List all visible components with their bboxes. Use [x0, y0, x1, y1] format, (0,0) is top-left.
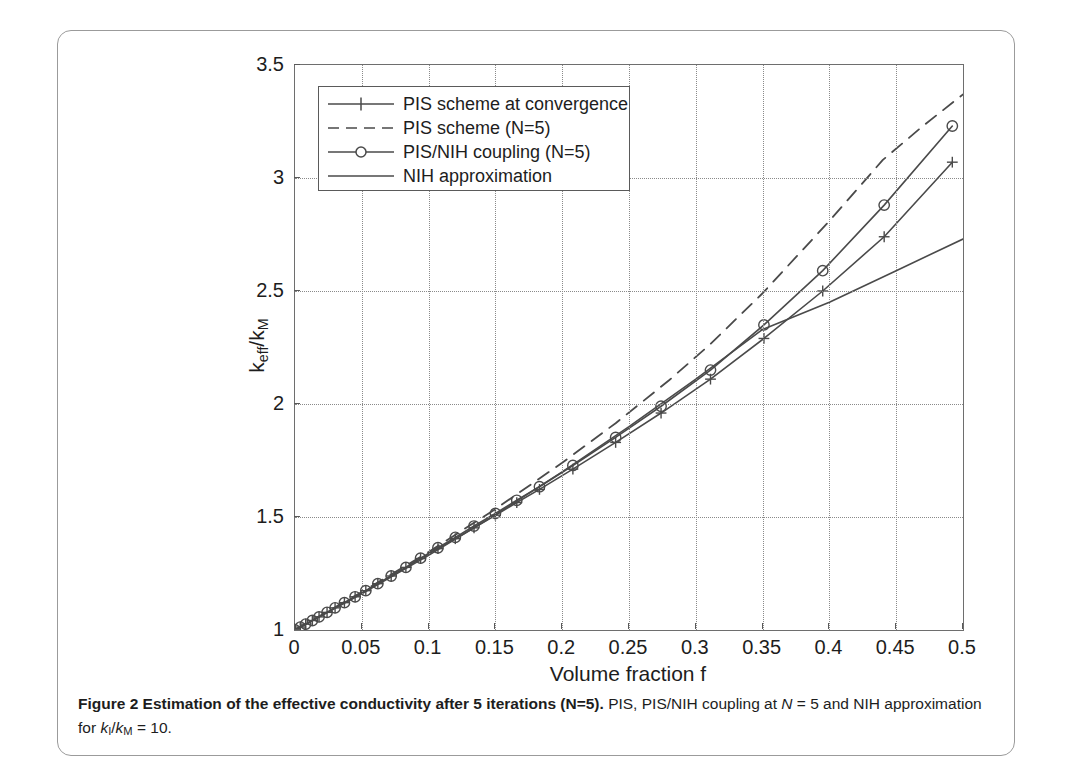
x-gridline	[763, 65, 764, 630]
y-gridline	[295, 404, 963, 405]
x-tick-label: 0	[288, 636, 299, 659]
y-tick-label: 1.5	[237, 505, 284, 528]
x-tick-label: 0.2	[547, 636, 575, 659]
x-tick	[762, 623, 763, 629]
legend-label: PIS scheme at convergence	[403, 94, 628, 114]
y-tick	[294, 403, 300, 404]
x-tick	[628, 623, 629, 629]
x-tick-label: 0.25	[609, 636, 648, 659]
caption-text-1: PIS, PIS/NIH coupling at	[604, 695, 781, 712]
figure-page: keff/kM 00.050.10.150.20.250.30.350.40.4…	[0, 0, 1068, 779]
legend-item: PIS scheme at convergence	[319, 92, 629, 116]
legend-swatch-solid-line	[326, 166, 396, 186]
x-tick	[494, 623, 495, 629]
legend-line-dashed-icon	[326, 118, 396, 138]
x-tick-label: 0.35	[742, 636, 781, 659]
legend-swatch-plus-line	[326, 94, 396, 114]
x-tick	[962, 623, 963, 629]
y-axis-label: keff/kM	[245, 285, 270, 405]
y-tick	[294, 516, 300, 517]
x-tick-label: 0.05	[341, 636, 380, 659]
caption-italic-n: N	[781, 695, 792, 712]
y-tick	[294, 177, 300, 178]
legend-label: PIS scheme (N=5)	[403, 118, 551, 138]
x-gridline	[829, 65, 830, 630]
figure-card: keff/kM 00.050.10.150.20.250.30.350.40.4…	[57, 30, 1015, 756]
y-gridline	[295, 517, 963, 518]
x-tick	[828, 623, 829, 629]
legend-item: PIS/NIH coupling (N=5)	[319, 140, 629, 164]
legend-line-solid-icon	[326, 166, 396, 186]
caption-text-3: = 10.	[133, 719, 172, 736]
x-tick-label: 0.45	[876, 636, 915, 659]
y-tick-label: 1	[237, 618, 284, 641]
legend-item: NIH approximation	[319, 164, 629, 188]
series-line	[295, 126, 952, 630]
chart-legend: PIS scheme at convergence PIS scheme (N=…	[318, 86, 630, 191]
caption-title: Figure 2 Estimation of the effective con…	[78, 695, 604, 712]
x-tick-label: 0.1	[414, 636, 442, 659]
x-gridline	[896, 65, 897, 630]
y-tick	[294, 64, 300, 65]
legend-swatch-circle-line	[326, 142, 396, 162]
x-tick-label: 0.4	[814, 636, 842, 659]
plot-area: keff/kM 00.050.10.150.20.250.30.350.40.4…	[237, 64, 937, 684]
y-tick-label: 3.5	[237, 53, 284, 76]
x-axis-label: Volume fraction f	[550, 662, 706, 686]
x-tick	[695, 623, 696, 629]
figure-caption: Figure 2 Estimation of the effective con…	[78, 692, 996, 741]
legend-label: PIS/NIH coupling (N=5)	[403, 142, 591, 162]
caption-sub-m: M	[123, 725, 132, 737]
y-tick	[294, 290, 300, 291]
x-gridline	[696, 65, 697, 630]
x-tick-label: 0.5	[948, 636, 976, 659]
y-gridline	[295, 291, 963, 292]
y-tick	[294, 629, 300, 630]
x-tick	[361, 623, 362, 629]
legend-label: NIH approximation	[403, 166, 552, 186]
series-line	[295, 162, 952, 630]
x-tick-label: 0.15	[475, 636, 514, 659]
legend-line-circle-icon	[326, 142, 396, 162]
y-tick-label: 3	[237, 166, 284, 189]
legend-line-plus-icon	[326, 94, 396, 114]
x-tick-label: 0.3	[681, 636, 709, 659]
legend-item: PIS scheme (N=5)	[319, 116, 629, 140]
y-tick-label: 2.5	[237, 279, 284, 302]
x-tick	[561, 623, 562, 629]
x-tick	[428, 623, 429, 629]
legend-swatch-dashed-line	[326, 118, 396, 138]
caption-italic-k-i: k	[100, 719, 108, 736]
x-tick	[895, 623, 896, 629]
y-tick-label: 2	[237, 392, 284, 415]
